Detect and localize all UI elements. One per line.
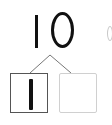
connector-right (50, 55, 71, 73)
part-digit-one (29, 79, 33, 110)
part-box-left[interactable]: 1 (10, 73, 48, 113)
partial-glyph-edge (107, 26, 112, 41)
connector-left (30, 55, 50, 73)
part-box-right-empty[interactable] (59, 73, 97, 113)
